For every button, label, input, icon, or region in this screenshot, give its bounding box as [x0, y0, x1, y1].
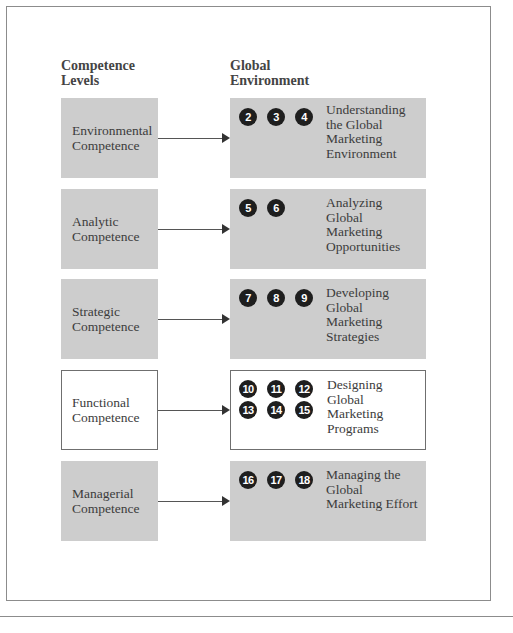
heading-line: Levels [61, 73, 135, 88]
competence-label: Functional Competence [72, 371, 139, 449]
environment-box-designing: 10 11 12 13 14 15 Designing Global Marke… [230, 370, 426, 450]
label-line: Competence [72, 319, 139, 334]
chapter-badges: 10 11 12 13 14 15 [239, 380, 319, 419]
bottom-rule [0, 616, 513, 617]
topic-line: Marketing [326, 315, 389, 330]
environment-box-understanding: 2 3 4 Understanding the Global Marketing… [230, 98, 426, 178]
chapter-badge: 10 [239, 380, 257, 398]
chapter-badge: 14 [267, 401, 285, 419]
topic-line: Designing [327, 378, 383, 393]
competence-box-strategic: Strategic Competence [61, 279, 158, 359]
topic-line: Marketing Effort [326, 497, 418, 512]
heading-line: Competence [61, 58, 135, 73]
chapter-badge: 12 [295, 380, 313, 398]
topic-label: Analyzing Global Marketing Opportunities [326, 196, 400, 254]
topic-line: Opportunities [326, 240, 400, 255]
chapter-badge: 2 [239, 108, 257, 126]
topic-line: the Global [326, 118, 405, 133]
topic-line: Understanding [326, 103, 405, 118]
chapter-badge: 5 [239, 199, 257, 217]
label-line: Environmental [72, 123, 152, 138]
competence-box-analytic: Analytic Competence [61, 189, 158, 269]
chapter-badges: 7 8 9 [239, 289, 319, 307]
chapter-badges: 5 6 [239, 199, 319, 217]
chapter-badge: 9 [295, 289, 313, 307]
chapter-badge: 16 [239, 471, 257, 489]
competence-label: Analytic Competence [72, 189, 139, 269]
competence-label: Environmental Competence [72, 98, 152, 178]
label-line: Analytic [72, 214, 139, 229]
chapter-badges: 16 17 18 [239, 471, 319, 489]
chapter-badge: 7 [239, 289, 257, 307]
chapter-badge: 4 [295, 108, 313, 126]
arrow-right-icon [158, 133, 230, 143]
chapter-badge: 11 [267, 380, 285, 398]
environment-box-analyzing: 5 6 Analyzing Global Marketing Opportuni… [230, 189, 426, 269]
competence-box-managerial: Managerial Competence [61, 461, 158, 541]
heading-line: Environment [230, 73, 309, 88]
label-line: Competence [72, 229, 139, 244]
competence-box-environmental: Environmental Competence [61, 98, 158, 178]
topic-line: Marketing [326, 132, 405, 147]
chapter-badge: 3 [267, 108, 285, 126]
arrow-right-icon [158, 405, 230, 415]
label-line: Functional [72, 395, 139, 410]
environment-box-managing: 16 17 18 Managing the Global Marketing E… [230, 461, 426, 541]
competence-label: Strategic Competence [72, 279, 139, 359]
arrow-right-icon [158, 224, 230, 234]
topic-line: Analyzing [326, 196, 400, 211]
chapter-badge: 18 [295, 471, 313, 489]
topic-label: Designing Global Marketing Programs [327, 378, 383, 436]
topic-label: Managing the Global Marketing Effort [326, 468, 418, 512]
chapter-badge: 13 [239, 401, 257, 419]
topic-line: Programs [327, 422, 383, 437]
competence-box-functional: Functional Competence [61, 370, 158, 450]
chapter-badge: 8 [267, 289, 285, 307]
chapter-badge: 6 [267, 199, 285, 217]
topic-line: Strategies [326, 330, 389, 345]
topic-line: Global [326, 483, 418, 498]
chapter-badge: 15 [295, 401, 313, 419]
environment-box-developing: 7 8 9 Developing Global Marketing Strate… [230, 279, 426, 359]
label-line: Managerial [72, 486, 139, 501]
topic-label: Understanding the Global Marketing Envir… [326, 103, 405, 161]
heading-competence-levels: Competence Levels [61, 58, 135, 88]
arrow-right-icon [158, 496, 230, 506]
label-line: Competence [72, 410, 139, 425]
arrow-right-icon [158, 314, 230, 324]
label-line: Competence [72, 138, 152, 153]
chapter-badges: 2 3 4 [239, 108, 319, 126]
heading-global-environment: Global Environment [230, 58, 309, 88]
topic-line: Marketing [327, 407, 383, 422]
topic-line: Managing the [326, 468, 418, 483]
label-line: Strategic [72, 304, 139, 319]
chapter-badge: 17 [267, 471, 285, 489]
topic-line: Developing [326, 286, 389, 301]
topic-line: Global [327, 393, 383, 408]
topic-label: Developing Global Marketing Strategies [326, 286, 389, 344]
heading-line: Global [230, 58, 309, 73]
topic-line: Global [326, 211, 400, 226]
topic-line: Global [326, 301, 389, 316]
topic-line: Environment [326, 147, 405, 162]
label-line: Competence [72, 501, 139, 516]
competence-label: Managerial Competence [72, 461, 139, 541]
topic-line: Marketing [326, 225, 400, 240]
